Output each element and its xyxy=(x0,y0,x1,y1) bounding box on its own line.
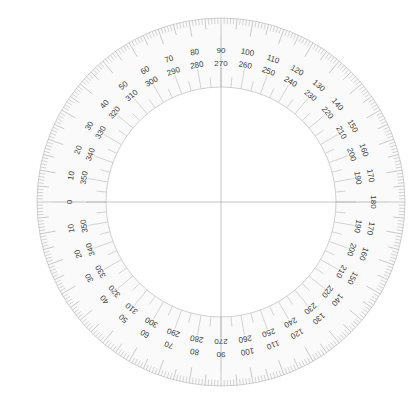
inner-degree-label: 270 xyxy=(214,59,228,68)
outer-degree-label: 90 xyxy=(217,46,226,55)
outer-degree-label: 0 xyxy=(65,199,74,204)
inner-degree-label: 270 xyxy=(214,337,228,346)
outer-degree-label: 90 xyxy=(216,350,225,359)
protractor: 0102030405060708090100110120130140150160… xyxy=(0,0,416,403)
outer-degree-label: 180 xyxy=(369,195,378,209)
protractor-diagram: 0102030405060708090100110120130140150160… xyxy=(0,0,416,403)
